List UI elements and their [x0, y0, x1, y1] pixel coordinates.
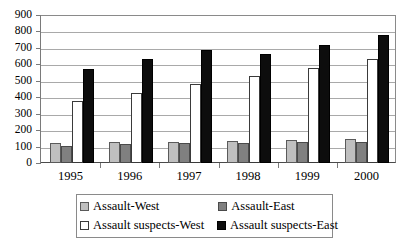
y-axis-tick — [36, 81, 41, 82]
y-axis-tick-label: 600 — [15, 58, 32, 70]
x-axis-tick — [278, 163, 279, 168]
y-axis-tick — [36, 48, 41, 49]
x-axis-tick — [100, 163, 101, 168]
bar — [120, 144, 131, 163]
bar — [72, 101, 83, 163]
x-axis-tick-label: 1995 — [41, 169, 100, 183]
bar — [308, 68, 319, 163]
x-axis-tick — [219, 163, 220, 168]
x-axis-tick-label: 1999 — [278, 169, 337, 183]
x-axis-tick-label: 1997 — [159, 169, 218, 183]
y-axis-tick — [36, 147, 41, 148]
bar — [297, 142, 308, 163]
bar — [109, 142, 120, 163]
bar-group — [278, 15, 337, 163]
legend-label-assault-east: Assault-East — [231, 200, 294, 213]
x-axis-tick-label: 2000 — [337, 169, 396, 183]
bar — [131, 93, 142, 163]
legend-row-1: Assault-West Assault-East — [80, 197, 329, 216]
y-axis-tick — [36, 64, 41, 65]
legend-row-2: Assault suspects-West Assault suspects-E… — [80, 216, 329, 235]
bar — [83, 69, 94, 163]
y-axis-tick-label: 100 — [15, 141, 32, 153]
chart-legend: Assault-West Assault-East Assault suspec… — [76, 194, 333, 238]
bar — [249, 76, 260, 163]
bar — [50, 143, 61, 163]
bar-chart: 9008007006005004003002001000 19951996199… — [0, 0, 407, 247]
legend-label-assault-suspects-west: Assault suspects-West — [93, 219, 204, 232]
legend-label-assault-west: Assault-West — [93, 200, 159, 213]
y-axis-tick-label: 400 — [15, 91, 32, 103]
y-axis-tick — [36, 114, 41, 115]
y-axis-tick — [36, 31, 41, 32]
y-axis-tick-label: 200 — [15, 124, 32, 136]
x-axis-tick-label: 1996 — [100, 169, 159, 183]
x-axis-tick — [337, 163, 338, 168]
bar — [201, 50, 212, 163]
x-axis-tick — [159, 163, 160, 168]
y-axis-tick-label: 500 — [15, 75, 32, 87]
y-axis-tick-label: 900 — [15, 9, 32, 21]
y-axis-tick — [36, 97, 41, 98]
bar — [142, 59, 153, 163]
y-axis-tick — [36, 15, 41, 16]
legend-swatch-icon-assault-suspects-west — [80, 221, 89, 230]
bar-group — [41, 15, 100, 163]
bars-layer — [41, 15, 396, 163]
y-axis-labels: 9008007006005004003002001000 — [0, 0, 36, 190]
bar — [286, 140, 297, 163]
bar-group — [337, 15, 396, 163]
x-axis-tick-label: 1998 — [219, 169, 278, 183]
bar-group — [100, 15, 159, 163]
bar — [238, 143, 249, 163]
bar — [190, 84, 201, 163]
legend-swatch-icon-assault-west — [80, 202, 89, 211]
bar — [61, 146, 72, 163]
legend-swatch-icon-assault-east — [218, 202, 227, 211]
bar-group — [219, 15, 278, 163]
y-axis-tick — [36, 130, 41, 131]
legend-swatch-icon-assault-suspects-east — [217, 221, 226, 230]
bar — [378, 35, 389, 163]
bar — [227, 141, 238, 163]
legend-item-assault-suspects-west[interactable]: Assault suspects-West — [80, 219, 217, 232]
bar — [345, 139, 356, 163]
bar — [367, 59, 378, 163]
x-axis-labels: 199519961997199819992000 — [41, 169, 396, 187]
bar — [260, 54, 271, 163]
y-axis-tick-label: 800 — [15, 25, 32, 37]
legend-label-assault-suspects-east: Assault suspects-East — [230, 219, 338, 232]
y-axis-tick-label: 300 — [15, 108, 32, 120]
bar — [179, 143, 190, 163]
legend-item-assault-west[interactable]: Assault-West — [80, 200, 218, 213]
bar — [168, 142, 179, 163]
bar — [319, 45, 330, 163]
bar — [356, 142, 367, 163]
legend-item-assault-east[interactable]: Assault-East — [218, 200, 329, 213]
legend-item-assault-suspects-east[interactable]: Assault suspects-East — [217, 219, 329, 232]
y-axis-tick-label: 700 — [15, 42, 32, 54]
y-axis-tick — [36, 163, 41, 164]
y-axis-tick-label: 0 — [26, 157, 32, 169]
plot-region: 9008007006005004003002001000 19951996199… — [0, 0, 407, 190]
bar-group — [159, 15, 218, 163]
